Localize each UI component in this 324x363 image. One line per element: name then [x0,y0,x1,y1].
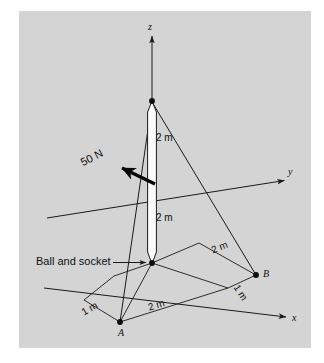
z-axis-label: z [148,22,152,32]
anchor-a-label: A [118,328,124,338]
dimension-mast-lower: 2 m [156,213,173,223]
ball-and-socket-label: Ball and socket [36,256,111,267]
x-axis-label: x [292,313,296,323]
cable-to-anchor-b [152,102,256,275]
dimension-mast-upper: 2 m [156,133,173,143]
anchor-b-label: B [263,269,269,279]
x-axis [44,288,286,317]
figure-root: z y x 2 m 2 m 2 m 1 m 2 m 1 m A B 50 N B… [0,0,324,363]
y-axis-label: y [288,167,292,177]
mast-top-node [149,98,155,104]
ball-and-socket-node [149,260,155,266]
anchor-b-node [253,272,259,278]
anchor-a-node [117,319,123,325]
ground-construction-lines-a [84,263,228,322]
